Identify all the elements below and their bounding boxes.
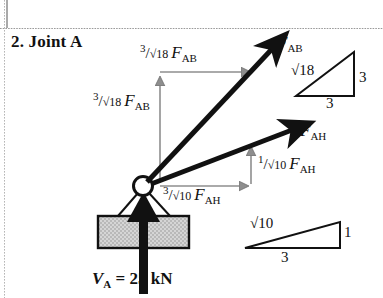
label-fab-vertical-component: 3/√18FAB (93, 92, 150, 109)
label-force-ab: FAB (277, 34, 303, 51)
force-subscript: AH (310, 130, 326, 142)
label-fah-horizontal-component: 3/√10FAH (163, 186, 221, 203)
label-fah-vertical-component: 1/√10FAH (258, 155, 316, 172)
coef-denominator: √18 (103, 95, 122, 109)
page-title: 2. Joint A (11, 33, 82, 50)
coef-force-subscript: AB (135, 100, 150, 112)
figure-canvas: 2. Joint A 3/√18FAB 3/√18FAB FAB FAH 1/√… (0, 0, 383, 298)
lower-triangle-hypotenuse-label: √10 (250, 216, 273, 231)
coef-force-symbol: F (168, 43, 181, 62)
coef-denominator: √18 (150, 47, 169, 61)
coef-force-symbol: F (191, 185, 204, 204)
coef-force-subscript: AH (300, 163, 316, 175)
coef-force-symbol: F (121, 91, 134, 110)
force-symbol: F (300, 121, 310, 140)
coef-denominator: √10 (173, 189, 192, 203)
label-force-ah: FAH (300, 122, 326, 139)
upper-triangle-vertical-label: 3 (359, 70, 367, 85)
coef-force-subscript: AH (205, 194, 221, 206)
coef-force-symbol: F (286, 154, 299, 173)
label-fab-horizontal-component: 3/√18FAB (140, 44, 197, 61)
reaction-force-label: VA = 25 kN (92, 270, 172, 287)
upper-triangle-base-label: 3 (326, 96, 334, 111)
force-subscript: AB (287, 42, 302, 54)
coef-force-subscript: AB (182, 52, 197, 64)
upper-triangle-hypotenuse-label: √18 (291, 63, 314, 78)
reaction-value: = 25 kN (111, 269, 172, 288)
lower-triangle-base-label: 3 (281, 250, 289, 265)
coef-denominator: √10 (268, 158, 287, 172)
force-symbol: F (277, 33, 287, 52)
lower-triangle-vertical-label: 1 (344, 225, 352, 240)
reaction-symbol: V (92, 269, 103, 288)
